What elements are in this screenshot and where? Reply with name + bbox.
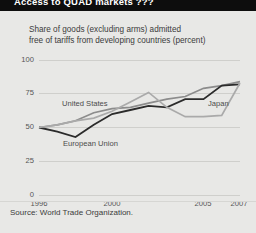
series-label-united-states: United States <box>62 99 108 108</box>
series-label-japan: Japan <box>208 99 229 108</box>
chart-panel: Share of goods (excluding arms) admitted… <box>0 11 256 201</box>
figure-title-bar: Access to QUAD markets ??? <box>0 0 256 11</box>
series-label-european-union: European Union <box>63 139 118 148</box>
source-note: Source: World Trade Organization. <box>10 208 133 217</box>
section-divider <box>0 201 256 202</box>
line-european-union <box>39 84 240 137</box>
figure-title: Access to QUAD markets ??? <box>14 0 154 7</box>
figure-container: Access to QUAD markets ??? Share of good… <box>0 0 256 233</box>
plot-area: 100 75 50 25 0 1996 2000 2005 2007 Unite… <box>0 11 256 201</box>
